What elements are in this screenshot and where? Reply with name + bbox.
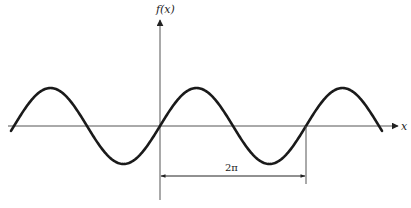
y-axis-label: f(x) (155, 3, 175, 16)
period-label: 2π (225, 162, 238, 173)
sine-diagram: f(x) x 2π (0, 0, 411, 208)
x-axis-label: x (401, 120, 408, 133)
